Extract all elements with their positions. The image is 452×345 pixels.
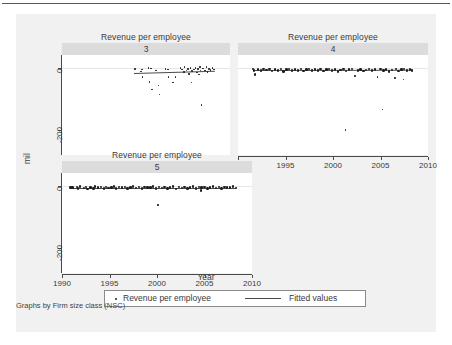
panel-strip: 4 bbox=[238, 43, 428, 55]
data-point bbox=[391, 69, 393, 71]
x-axis-tick-label: 1995 bbox=[96, 279, 124, 288]
x-axis-tick bbox=[157, 275, 158, 278]
data-point bbox=[71, 186, 73, 188]
panel-title: Revenue per employee bbox=[62, 32, 230, 42]
graph-footnote: Graphs by Firm size class (NSC) bbox=[16, 301, 125, 310]
data-point bbox=[371, 69, 373, 71]
y-axis-tick-label: -200 bbox=[55, 127, 64, 143]
data-point bbox=[197, 68, 199, 70]
panel-title: Revenue per employee bbox=[238, 32, 428, 42]
data-point bbox=[232, 185, 234, 187]
x-axis-tick bbox=[428, 157, 429, 160]
data-point bbox=[191, 70, 193, 72]
data-point bbox=[354, 75, 356, 77]
data-point bbox=[374, 68, 376, 70]
data-point bbox=[188, 73, 190, 75]
x-axis-tick bbox=[62, 275, 63, 278]
data-point bbox=[115, 187, 117, 189]
data-point bbox=[157, 204, 159, 206]
data-point bbox=[200, 189, 202, 191]
data-point bbox=[167, 69, 169, 71]
data-point bbox=[204, 70, 206, 72]
data-point bbox=[257, 68, 259, 70]
data-point bbox=[215, 187, 217, 189]
data-point bbox=[187, 68, 189, 70]
y-axis-title: mil bbox=[22, 153, 32, 164]
data-point bbox=[403, 79, 405, 81]
y-axis-tick-label: 0 bbox=[55, 68, 64, 72]
x-axis-tick-label: 2000 bbox=[319, 161, 347, 170]
data-point bbox=[158, 85, 160, 87]
data-point bbox=[79, 185, 81, 187]
data-point bbox=[121, 186, 123, 188]
data-point bbox=[175, 76, 177, 78]
x-axis-tick bbox=[205, 275, 206, 278]
y-axis-tick-label: 0 bbox=[55, 186, 64, 190]
data-point bbox=[155, 70, 157, 72]
panel-3: Revenue per employee3 bbox=[62, 32, 230, 155]
data-point bbox=[254, 73, 256, 75]
data-point bbox=[213, 69, 215, 71]
stata-graph-canvas: mil Year Revenue per employee30-200Reven… bbox=[16, 14, 436, 332]
fitted-values-line bbox=[134, 70, 215, 73]
data-point bbox=[235, 187, 237, 189]
data-point bbox=[388, 70, 390, 72]
data-point bbox=[345, 129, 347, 131]
legend-label-fit: Fitted values bbox=[289, 291, 337, 306]
x-axis-tick-label: 1995 bbox=[272, 161, 300, 170]
x-axis-tick-label: 2005 bbox=[367, 161, 395, 170]
chart-legend: Revenue per employee Fitted values bbox=[104, 290, 366, 307]
plot-area bbox=[62, 55, 230, 155]
panel-strip: 5 bbox=[62, 161, 252, 173]
data-point bbox=[192, 185, 194, 187]
legend-marker-line bbox=[245, 298, 281, 299]
data-point bbox=[149, 81, 151, 83]
data-point bbox=[165, 68, 167, 70]
panel-class-label: 3 bbox=[62, 43, 230, 55]
panel-class-label: 5 bbox=[62, 161, 252, 173]
data-point bbox=[77, 187, 79, 189]
x-axis-tick bbox=[252, 275, 253, 278]
data-point bbox=[151, 89, 153, 91]
x-axis-tick-label: 1990 bbox=[48, 279, 76, 288]
x-axis-tick-label: 2010 bbox=[238, 279, 266, 288]
x-axis-tick-label: 2010 bbox=[414, 161, 442, 170]
x-axis-tick bbox=[286, 157, 287, 160]
data-point bbox=[201, 104, 203, 106]
legend-marker-dot bbox=[115, 298, 117, 300]
x-axis-tick bbox=[333, 157, 334, 160]
panel-5: Revenue per employee5 bbox=[62, 150, 252, 273]
panel-strip: 3 bbox=[62, 43, 230, 55]
data-point bbox=[175, 188, 177, 190]
data-point bbox=[229, 186, 231, 188]
data-point bbox=[172, 82, 174, 84]
data-point bbox=[150, 68, 152, 70]
data-point bbox=[334, 68, 336, 70]
data-point bbox=[277, 69, 279, 71]
data-point bbox=[159, 94, 161, 96]
data-point bbox=[394, 77, 396, 79]
x-axis-tick bbox=[110, 275, 111, 278]
plot-area bbox=[238, 55, 428, 155]
data-point bbox=[134, 68, 136, 70]
top-divider-rule bbox=[2, 3, 450, 4]
data-point bbox=[155, 187, 157, 189]
data-point bbox=[191, 82, 193, 84]
data-point bbox=[294, 68, 296, 70]
y-axis-tick-label: -200 bbox=[55, 245, 64, 261]
x-axis-tick-label: 2000 bbox=[143, 279, 171, 288]
data-point bbox=[406, 69, 408, 71]
data-point bbox=[377, 76, 379, 78]
plot-area bbox=[62, 173, 252, 273]
data-point bbox=[199, 66, 201, 68]
legend-label-scatter: Revenue per employee bbox=[123, 291, 211, 306]
data-point bbox=[253, 69, 255, 71]
data-point bbox=[291, 69, 293, 71]
fitted-values-line bbox=[71, 188, 236, 189]
data-point bbox=[198, 74, 200, 76]
data-point bbox=[411, 69, 413, 71]
data-point bbox=[202, 68, 204, 70]
data-point bbox=[331, 69, 333, 71]
data-point bbox=[142, 76, 144, 78]
panel-title: Revenue per employee bbox=[62, 150, 252, 160]
